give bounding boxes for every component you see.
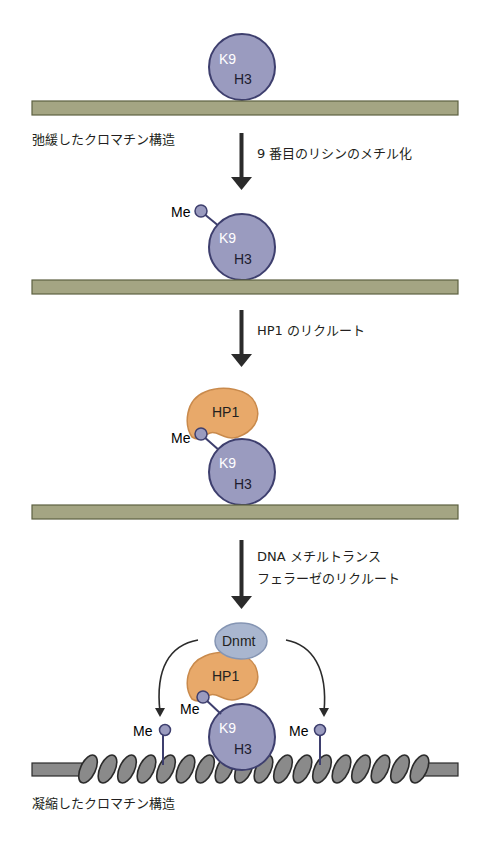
curved-arrow-right [286,640,325,712]
step-arrow-1: 9 番目のリシンのメチル化 [231,133,412,190]
arrow-down-icon [231,177,252,190]
chromatin-coil-loop [367,752,393,786]
chromatin-diagram: K9 H3 弛緩したクロマチン構造 9 番目のリシンのメチル化 Me K9 H3… [0,0,484,849]
k9-label: K9 [219,455,236,471]
chromatin-coil-loop [348,752,374,786]
h3-label: H3 [234,251,252,267]
stage-1: K9 H3 弛緩したクロマチン構造 [32,34,458,147]
me-label: Me [133,723,153,739]
h3-label: H3 [234,71,252,87]
me-label: Me [289,723,309,739]
stage-3: HP1 Me K9 H3 [32,388,458,519]
step-1-text: 9 番目のリシンのメチル化 [257,146,412,161]
arrow-down-icon [231,354,252,367]
arrowhead-right-icon [319,708,329,717]
arrow-shaft [240,540,244,598]
chromatin-coil-loop [270,752,296,786]
histone-h3 [209,439,275,505]
step-3-text-line-2: フェラーゼのリクルート [257,571,400,586]
chromatin-coil-loop [133,752,159,786]
histone-h3 [209,214,275,280]
methyl-group [195,205,207,217]
histone-h3 [209,34,275,100]
arrow-shaft [240,133,244,179]
me-label: Me [180,701,200,717]
relaxed-chromatin-fiber [32,505,458,519]
relaxed-chromatin-fiber [32,280,458,294]
relaxed-chromatin-fiber [32,101,458,115]
chromatin-coil-loop [289,752,315,786]
step-arrow-3: DNA メチルトランス フェラーゼのリクルート [231,540,400,609]
chromatin-coil-loop [192,752,218,786]
condensed-fiber-left-tail [32,763,82,776]
step-2-text: HP1 のリクルート [257,323,365,338]
chromatin-coil-loop [309,752,335,786]
histone-h3 [209,704,275,770]
arrow-down-icon [231,596,252,609]
k9-label: K9 [219,230,236,246]
k9-label: K9 [219,51,236,67]
k9-label: K9 [219,720,236,736]
condensed-chromatin-label: 凝縮したクロマチン構造 [32,796,175,811]
stage-4: Me Me K9 H3 HP1 Me Dnmt 凝縮したクロマチン構造 [32,623,458,811]
dna-methyl-group [160,725,171,736]
me-label: Me [171,204,191,220]
chromatin-coil-loop [94,752,120,786]
hp1-label: HP1 [212,404,239,420]
chromatin-coil-loop [387,752,413,786]
dna-methyl-group [315,725,326,736]
methyl-group [195,428,207,440]
dnmt-label: Dnmt [222,633,256,649]
step-3-text-line-1: DNA メチルトランス [257,549,381,564]
hp1-label: HP1 [212,668,239,684]
chromatin-coil-loop [172,752,198,786]
chromatin-coil-loop [328,752,354,786]
chromatin-coil-loop [114,752,140,786]
relaxed-chromatin-label: 弛緩したクロマチン構造 [32,132,175,147]
step-arrow-2: HP1 のリクルート [231,310,365,367]
me-label: Me [171,430,191,446]
arrowhead-left-icon [155,708,165,717]
arrow-shaft [240,310,244,356]
chromatin-coil-loop [153,752,179,786]
h3-label: H3 [234,741,252,757]
stage-2: Me K9 H3 [32,204,458,294]
h3-label: H3 [234,476,252,492]
